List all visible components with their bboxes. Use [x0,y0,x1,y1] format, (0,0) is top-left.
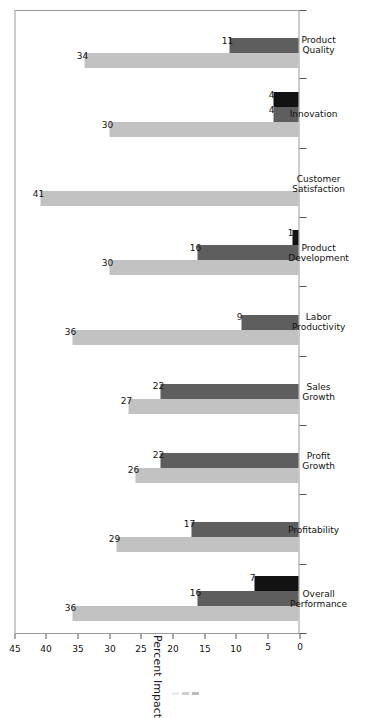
category-label-line-1: Labor [305,312,330,322]
bar: 34 [84,53,298,68]
category-label: Innovation [289,109,337,119]
category-tick-mark [299,356,306,357]
bar: 16 [197,591,298,606]
value-axis-tick-label: 20 [167,645,178,654]
bar: 41 [40,191,298,206]
bar-value-label: 41 [32,190,43,199]
value-axis-tick-mark [267,634,268,639]
bar: 17 [191,522,298,537]
bar: 22 [160,453,298,468]
bar: 29 [116,537,298,552]
bar: 30 [109,260,298,275]
category-tick-mark [299,633,306,634]
bar-value-label: 7 [249,574,255,583]
bar-group: 36167 [15,564,298,633]
category-label: CustomerSatisfaction [292,173,345,193]
category-tick: LaborProductivity [299,287,371,356]
category-tick-mark [299,217,306,218]
category-label-line-1: Product [301,243,335,253]
bar: 36 [72,606,298,621]
category-tick-mark [299,564,306,565]
category-label-line-2: Productivity [291,322,344,332]
bar: 22 [160,384,298,399]
category-label: ProductQuality [301,35,335,55]
bar: 11 [229,38,298,53]
bar-group: 2917 [15,495,298,564]
bar-value-label: 30 [102,121,113,130]
bar-group: 2722 [15,357,298,426]
value-axis-tick-mark [235,634,236,639]
category-label: LaborProductivity [291,312,344,332]
category-axis-labels: OverallPerformanceProfitabilityProfitGro… [299,10,371,634]
category-tick-mark [299,78,306,79]
legend-swatch-series-2 [182,692,189,695]
value-axis-tick-mark [45,634,46,639]
value-axis-tick-mark [140,634,141,639]
category-label: ProfitGrowth [302,451,335,471]
bar-group: 369 [15,287,298,356]
category-label-line-2: Growth [302,461,335,471]
category-tick: SalesGrowth [299,357,371,426]
bar-value-label: 36 [64,604,75,613]
category-label: ProductDevelopment [288,243,349,263]
category-tick: ProfitGrowth [299,426,371,495]
bar-group: 30161 [15,218,298,287]
value-axis-tick-mark [172,634,173,639]
legend-swatch-series-1 [172,692,179,695]
value-axis-tick-label: 40 [40,645,51,654]
category-label-line-1: Profit [306,451,329,461]
value-axis-tick-mark [77,634,78,639]
category-label-line-2: Performance [290,599,347,609]
bar: 16 [197,245,298,260]
category-label-line-1: Product [301,35,335,45]
bar-value-label: 16 [190,244,201,253]
plot-frame: 36167291726222722369301614130443411 [14,10,299,634]
category-tick-mark [299,148,306,149]
category-label-line-1: Innovation [289,109,337,119]
bar-value-label: 4 [268,91,274,100]
bar-value-label: 22 [152,382,163,391]
category-label-line-2: Growth [302,391,335,401]
bar-value-label: 29 [108,535,119,544]
category-tick: Profitability [299,495,371,564]
value-axis-tick-label: 25 [135,645,146,654]
bar-value-label: 16 [190,589,201,598]
category-label-line-2: Satisfaction [292,183,345,193]
value-axis-tick-label: 45 [8,645,19,654]
category-tick: ProductDevelopment [299,218,371,287]
category-tick: OverallPerformance [299,565,371,634]
category-label-line-2: Quality [302,45,334,55]
category-label-line-1: Profitability [288,525,339,535]
bar-value-label: 11 [221,37,232,46]
bar: 36 [72,330,298,345]
bar-value-label: 22 [152,451,163,460]
bar-value-label: 1 [287,229,293,238]
cropped-legend-remnant [0,689,371,697]
bar-value-label: 27 [120,397,131,406]
category-tick-mark [299,425,306,426]
value-axis-tick-label: 10 [230,645,241,654]
value-axis-tick-label: 15 [198,645,209,654]
category-axis: OverallPerformanceProfitabilityProfitGro… [299,10,371,634]
value-axis-tick-label: 0 [296,642,302,651]
bar-value-label: 17 [183,520,194,529]
value-axis-tick-mark [299,634,300,639]
bar: 9 [241,315,298,330]
value-axis-tick-mark [204,634,205,639]
bar: 27 [128,399,298,414]
bar-group: 41 [15,149,298,218]
category-tick: ProductQuality [299,10,371,79]
value-axis-tick-mark [109,634,110,639]
value-axis-tick-mark [14,634,15,639]
category-label: Profitability [288,525,339,535]
bar: 30 [109,122,298,137]
category-tick: CustomerSatisfaction [299,149,371,218]
bar-group: 3411 [15,11,298,80]
category-label-line-1: Customer [296,173,340,183]
category-label-line-1: Sales [306,381,330,391]
category-tick-mark-end [299,10,306,11]
category-label-line-2: Development [288,253,349,263]
category-label: SalesGrowth [302,381,335,401]
